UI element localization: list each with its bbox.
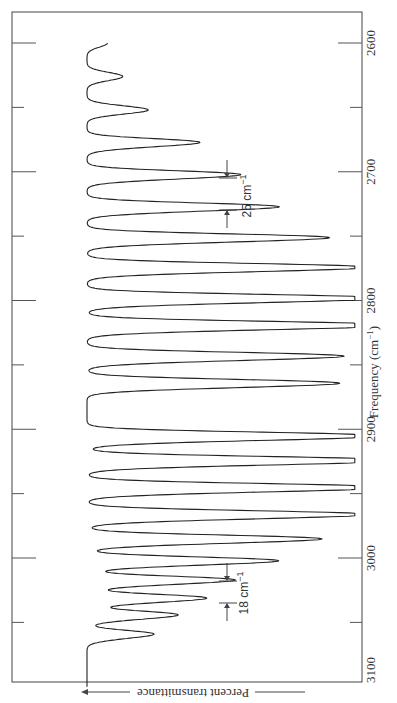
spectrum-trace — [87, 43, 355, 687]
svg-text:18 cm−1: 18 cm−1 — [235, 572, 251, 615]
plot-frame — [12, 12, 362, 682]
tick-label: 2600 — [363, 30, 378, 56]
arrow-left-icon — [81, 689, 88, 695]
arrow-down-icon — [224, 173, 230, 178]
svg-text:25 cm−1: 25 cm−1 — [238, 175, 254, 218]
annotation-18cm: 18 cm−1 — [219, 563, 251, 621]
tick-label: 2900 — [363, 416, 378, 442]
transmittance-axis-title: Percent transmittance — [81, 686, 305, 701]
frequency-axis-title: Frequency (cm−1) — [365, 326, 381, 418]
svg-text:Percent transmittance: Percent transmittance — [137, 686, 249, 701]
tick-label: 2700 — [363, 159, 378, 185]
tick-label: 3100 — [363, 657, 378, 683]
tick-label: 3000 — [363, 545, 378, 571]
frequency-ticks — [12, 43, 362, 622]
annotation-25cm: 25 cm−1 — [219, 160, 254, 228]
tick-label: 2800 — [363, 288, 378, 314]
arrow-up-icon — [224, 603, 230, 608]
ir-spectrum-chart: 310030002900280027002600 Frequency (cm−1… — [0, 0, 397, 703]
